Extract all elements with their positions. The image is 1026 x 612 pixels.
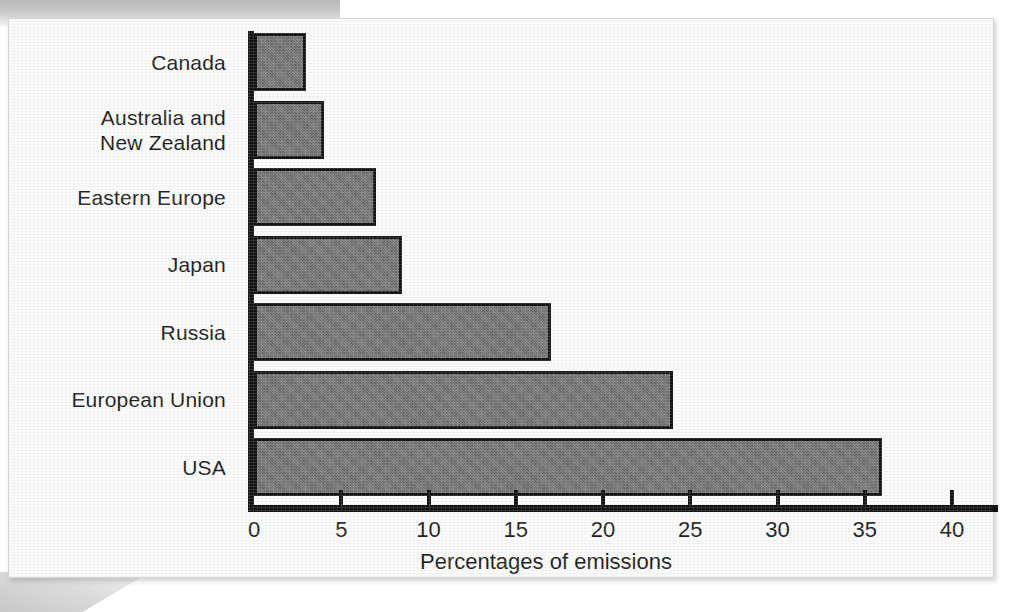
figure-plate: CanadaAustralia and New ZealandEastern E… — [8, 18, 994, 578]
tick-label: 0 — [230, 517, 278, 543]
bar-chart: CanadaAustralia and New ZealandEastern E… — [9, 19, 993, 577]
tick-mark — [688, 490, 692, 506]
tick-mark — [601, 490, 605, 506]
tick-mark — [776, 490, 780, 506]
tick-label: 20 — [579, 517, 627, 543]
tick-label: 15 — [492, 517, 540, 543]
tick-label: 30 — [754, 517, 802, 543]
tick-mark — [339, 490, 343, 506]
tick-label: 25 — [666, 517, 714, 543]
x-axis-title: Percentages of emissions — [9, 549, 993, 575]
tick-mark — [427, 490, 431, 506]
tick-mark — [950, 490, 954, 506]
tick-label: 35 — [841, 517, 889, 543]
tick-label: 10 — [405, 517, 453, 543]
tick-label: 40 — [928, 517, 976, 543]
tick-mark — [863, 490, 867, 506]
scanned-page-root: CanadaAustralia and New ZealandEastern E… — [0, 0, 1026, 612]
tick-label: 5 — [317, 517, 365, 543]
value-axis-ticks: 0510152025303540 — [9, 19, 995, 579]
tick-mark — [514, 490, 518, 506]
